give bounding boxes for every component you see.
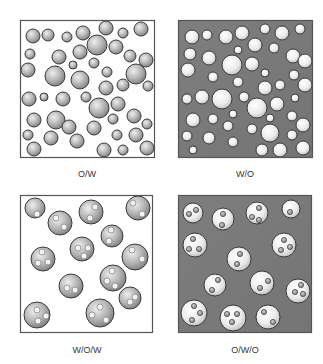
droplet xyxy=(23,130,33,140)
inner-droplet xyxy=(300,291,305,296)
droplet xyxy=(81,92,91,102)
label-ow: O/W xyxy=(78,169,97,179)
droplet xyxy=(272,233,296,257)
inner-droplet xyxy=(61,224,67,230)
inner-droplet xyxy=(215,277,220,282)
droplet xyxy=(248,38,262,52)
droplet xyxy=(203,132,215,144)
droplet xyxy=(275,26,289,40)
droplet xyxy=(129,128,143,142)
inner-droplet xyxy=(34,307,40,313)
droplet xyxy=(87,121,101,135)
inner-droplet xyxy=(35,318,41,324)
droplet xyxy=(286,279,310,303)
droplet xyxy=(184,48,196,60)
droplet xyxy=(118,28,128,38)
droplet xyxy=(21,63,35,77)
inner-droplet xyxy=(112,283,118,289)
inner-droplet xyxy=(191,303,196,308)
droplet xyxy=(127,109,141,123)
droplet xyxy=(227,247,251,271)
inner-droplet xyxy=(92,204,98,210)
inner-droplet xyxy=(278,247,283,252)
inner-droplet xyxy=(190,236,195,241)
droplet xyxy=(182,131,192,141)
droplet xyxy=(27,113,41,127)
droplet xyxy=(298,54,312,68)
inner-droplet xyxy=(108,227,114,233)
droplet xyxy=(56,92,70,106)
label-wow: W/O/W xyxy=(73,345,102,355)
inner-droplet xyxy=(106,238,112,244)
panel-oil-in-water xyxy=(20,20,155,158)
droplet xyxy=(181,63,195,77)
inner-droplet xyxy=(109,268,115,274)
inner-droplet xyxy=(43,313,49,319)
droplet xyxy=(287,130,297,140)
inner-droplet xyxy=(256,205,261,210)
droplet xyxy=(287,111,297,121)
inner-droplet xyxy=(196,246,201,251)
inner-droplet xyxy=(81,253,87,259)
inner-droplet xyxy=(34,211,40,217)
droplet xyxy=(27,142,41,156)
droplet xyxy=(223,121,233,131)
inner-droplet xyxy=(265,278,270,283)
inner-droplet xyxy=(220,211,225,216)
droplet xyxy=(289,70,299,80)
inner-droplet xyxy=(139,211,145,217)
droplet xyxy=(183,203,203,223)
droplet xyxy=(25,49,35,59)
inner-droplet xyxy=(53,215,59,221)
droplet xyxy=(76,26,90,40)
inner-droplet xyxy=(64,285,70,291)
inner-droplet xyxy=(281,237,286,242)
droplet xyxy=(109,40,123,54)
droplet xyxy=(204,274,226,296)
droplet xyxy=(291,94,299,102)
droplet xyxy=(45,66,65,86)
droplet xyxy=(182,94,192,104)
inner-droplet xyxy=(85,245,91,251)
droplet xyxy=(87,35,107,55)
droplet xyxy=(296,141,310,155)
droplet xyxy=(256,305,280,329)
inner-droplet xyxy=(97,304,103,310)
droplet xyxy=(102,67,112,77)
droplet xyxy=(140,141,154,155)
droplet xyxy=(183,233,207,257)
droplet xyxy=(99,21,113,35)
droplet xyxy=(52,50,66,64)
droplet xyxy=(62,32,72,42)
droplet xyxy=(219,30,233,44)
droplet xyxy=(111,97,125,111)
inner-droplet xyxy=(193,207,198,212)
droplet xyxy=(256,144,268,156)
droplet xyxy=(234,46,242,54)
droplet xyxy=(40,93,48,101)
droplet xyxy=(202,30,212,40)
inner-droplet xyxy=(219,222,224,227)
droplet xyxy=(228,137,238,147)
droplet xyxy=(266,114,274,122)
droplet xyxy=(239,92,249,102)
droplet xyxy=(142,119,152,129)
droplet xyxy=(143,81,153,91)
droplet xyxy=(73,45,87,59)
inner-droplet xyxy=(256,217,261,222)
droplet xyxy=(202,51,216,65)
droplet xyxy=(126,64,146,84)
droplet xyxy=(298,78,312,92)
droplet xyxy=(245,57,259,71)
droplet xyxy=(269,43,279,53)
inner-droplet xyxy=(197,310,202,315)
inner-droplet xyxy=(298,282,303,287)
droplet xyxy=(270,97,284,111)
droplet xyxy=(295,24,305,34)
droplet xyxy=(247,98,267,118)
droplet xyxy=(296,118,310,132)
droplet xyxy=(69,61,77,69)
droplet xyxy=(99,81,113,95)
droplet xyxy=(258,81,272,95)
droplet xyxy=(195,90,209,104)
